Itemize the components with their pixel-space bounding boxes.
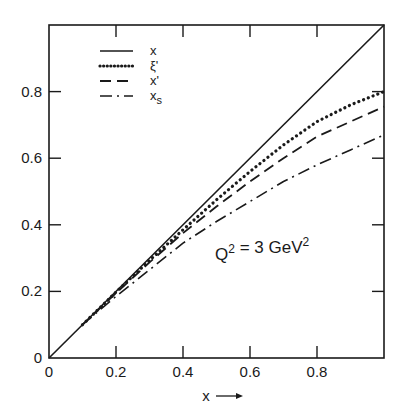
x-tick-label: 0.4 [173, 363, 194, 380]
x-axis-label: x [202, 387, 243, 404]
series-line [83, 135, 385, 325]
x-tick-label: 0 [45, 363, 53, 380]
svg-text:x: x [202, 387, 210, 404]
chart: 00.20.40.60.800.20.40.60.8 xξ'x'xs Q2 = … [0, 0, 404, 416]
legend-label: x' [150, 73, 159, 88]
y-tick-label: 0.4 [21, 216, 42, 233]
y-tick-label: 0 [34, 349, 42, 366]
annotation-q2: Q2 = 3 GeV2 [215, 235, 310, 264]
y-tick-label: 0.2 [21, 282, 42, 299]
y-tick-label: 0.8 [21, 83, 42, 100]
legend-label: ξ' [150, 58, 158, 73]
x-tick-label: 0.6 [240, 363, 261, 380]
y-tick-label: 0.6 [21, 149, 42, 166]
legend: xξ'x'xs [100, 43, 163, 106]
legend-label: xs [150, 88, 163, 106]
series-lines [49, 25, 384, 358]
series-line [83, 107, 385, 325]
x-tick-label: 0.2 [106, 363, 127, 380]
legend-label: x [150, 43, 157, 58]
x-tick-label: 0.8 [307, 363, 328, 380]
